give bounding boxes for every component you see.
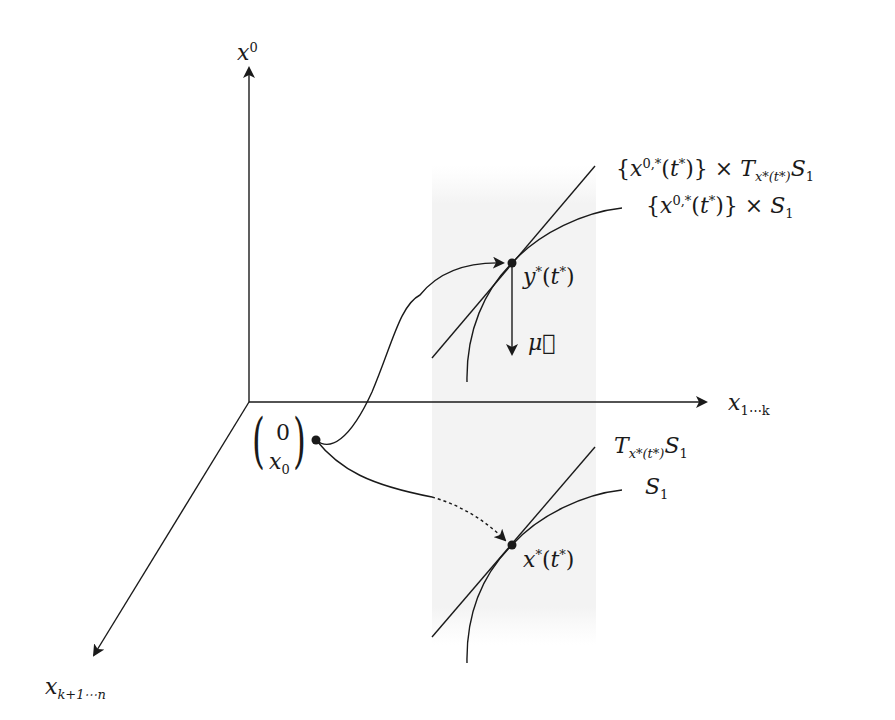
label-horizontal-axis: x1⋯k [728, 392, 770, 414]
label-upper-manifold: {x0,*(t*)} × S1 [646, 195, 794, 217]
lower-point-dot [508, 541, 517, 550]
start-point-dot [312, 436, 321, 445]
start-point-vector-bottom: x0 [269, 451, 290, 473]
label-lower-point: x*(t*) [523, 549, 574, 571]
start-point-paren-left: ( [252, 410, 265, 470]
shaded-plane-band [432, 165, 596, 645]
start-point-paren-right: ) [293, 410, 306, 470]
label-lower-tangent: Tx*(t*)S1 [614, 435, 688, 457]
label-upper-tangent: {x0,*(t*)} × Tx*(t*)S1 [616, 158, 814, 180]
label-diagonal-axis: xk+1⋯n [45, 676, 106, 698]
label-vertical-axis: x0 [237, 42, 258, 64]
start-point-vector-top: 0 [276, 422, 290, 444]
label-lower-manifold: S1 [645, 476, 668, 498]
label-normal-vector: μ⃗ [528, 332, 556, 354]
label-upper-point: y*(t*) [523, 266, 574, 288]
diagram-canvas [0, 0, 895, 720]
trajectory-lower-solid [316, 440, 432, 497]
upper-point-dot [508, 259, 517, 268]
diagonal-axis-xk1n [94, 402, 249, 655]
